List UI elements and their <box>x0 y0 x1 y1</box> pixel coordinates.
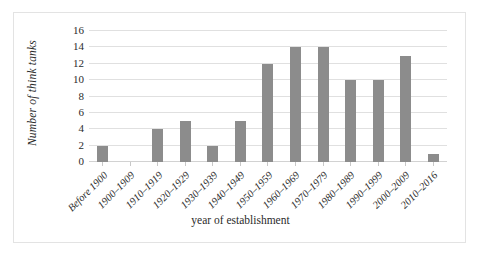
bar <box>400 56 411 162</box>
bar <box>345 80 356 162</box>
x-axis-title: year of establishment <box>14 214 467 226</box>
bar-slot <box>419 31 447 162</box>
plot-area: 0246810121416 <box>89 31 447 162</box>
bar <box>152 129 163 162</box>
bar-series <box>89 31 447 162</box>
bar-slot <box>364 31 392 162</box>
bar-slot <box>117 31 145 162</box>
bar-slot <box>254 31 282 162</box>
y-axis-title-container: Number of think tanks <box>19 13 45 173</box>
y-tick-label: 6 <box>79 106 85 118</box>
bar <box>262 64 273 162</box>
chart-figure: Number of think tanks 0246810121416 Befo… <box>13 12 466 243</box>
bar <box>207 146 218 162</box>
bar <box>318 47 329 162</box>
bar <box>428 154 439 162</box>
bar <box>235 121 246 162</box>
bar <box>180 121 191 162</box>
y-tick-label: 12 <box>73 57 84 69</box>
bar <box>97 146 108 162</box>
y-tick-label: 10 <box>73 73 84 85</box>
y-tick-label: 16 <box>73 24 84 36</box>
bar-slot <box>199 31 227 162</box>
y-tick-label: 14 <box>73 40 84 52</box>
y-axis-title: Number of think tanks <box>26 40 38 146</box>
y-tick-label: 4 <box>79 122 85 134</box>
y-tick-label: 2 <box>79 139 85 151</box>
bar-slot <box>282 31 310 162</box>
bar-slot <box>227 31 255 162</box>
bar-slot <box>337 31 365 162</box>
bar-slot <box>172 31 200 162</box>
bar-slot <box>144 31 172 162</box>
bar-slot <box>309 31 337 162</box>
y-tick-label: 0 <box>79 155 85 167</box>
bar <box>373 80 384 162</box>
y-tick-label: 8 <box>79 90 85 102</box>
bar <box>290 47 301 162</box>
bar-slot <box>392 31 420 162</box>
bar-slot <box>89 31 117 162</box>
